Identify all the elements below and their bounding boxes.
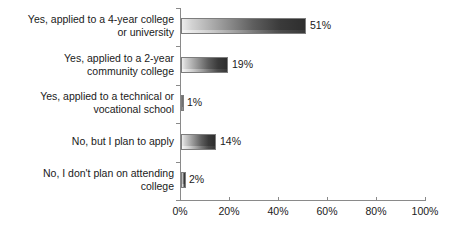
x-axis-tick [327,197,328,201]
x-axis-tick [278,197,279,201]
bar-value-label-0: 51% [310,18,331,32]
chart-category-row: No, I don't plan on attending college 2% [0,162,454,200]
bar-fill-0 [181,18,306,34]
x-axis-tick [229,197,230,201]
bar-value-label-2: 1% [187,95,202,109]
bar-fill-3 [181,134,216,150]
bar-3[interactable]: 14% [181,134,216,150]
x-axis-tick-label-5: 100% [405,205,445,217]
bar-value-label-4: 2% [189,172,204,186]
chart-category-row: No, but I plan to apply 14% [0,123,454,162]
bar-fill-1 [181,57,228,73]
x-axis-tick [180,197,181,201]
bar-chart: Yes, applied to a 4-year college or univ… [0,0,454,230]
chart-category-row: Yes, applied to a technical or vocationa… [0,85,454,123]
x-axis-tick-label-3: 60% [307,205,347,217]
x-axis-line [180,200,425,201]
x-axis-tick [376,197,377,201]
bar-2[interactable]: 1% [181,95,184,111]
chart-category-row: Yes, applied to a 2-year community colle… [0,46,454,85]
x-axis-tick-label-0: 0% [160,205,200,217]
category-label-1: Yes, applied to a 2-year community colle… [6,52,174,77]
category-label-0: Yes, applied to a 4-year college or univ… [6,13,174,38]
category-label-2: Yes, applied to a technical or vocationa… [6,90,174,115]
x-axis-tick-label-1: 20% [209,205,249,217]
x-axis-tick [425,197,426,201]
bar-fill-4 [181,172,186,188]
category-label-3: No, but I plan to apply [6,135,174,148]
bar-fill-2 [181,95,184,111]
plot-area: Yes, applied to a 4-year college or univ… [0,0,454,230]
bar-4[interactable]: 2% [181,172,186,188]
x-axis-tick-label-4: 80% [356,205,396,217]
x-axis-tick-label-2: 40% [258,205,298,217]
bar-value-label-1: 19% [232,57,253,71]
bar-value-label-3: 14% [220,134,241,148]
bar-1[interactable]: 19% [181,57,228,73]
bar-0[interactable]: 51% [181,18,306,34]
chart-category-row: Yes, applied to a 4-year college or univ… [0,8,454,46]
category-label-4: No, I don't plan on attending college [6,167,174,192]
